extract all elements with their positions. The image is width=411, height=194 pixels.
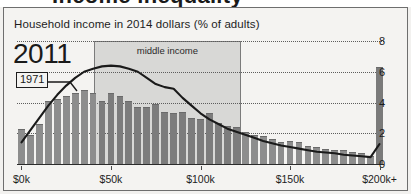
bar — [358, 153, 365, 164]
bar — [313, 147, 320, 164]
x-tick-label: $150k — [276, 173, 305, 185]
bar — [322, 149, 329, 164]
bar — [45, 101, 52, 164]
bar — [331, 150, 338, 164]
bar — [81, 90, 88, 164]
bar — [134, 107, 141, 164]
bar — [27, 135, 34, 164]
x-tick-label: $0k — [13, 173, 30, 185]
x-axis-tick — [380, 166, 381, 170]
bar — [260, 136, 267, 164]
bar — [206, 113, 213, 164]
bar — [170, 113, 177, 164]
bar — [349, 152, 356, 164]
x-axis-tick — [290, 166, 291, 170]
x-axis-tick — [111, 166, 112, 170]
bar — [224, 126, 231, 164]
y-tick-label-4: 4 — [379, 97, 385, 109]
bar — [90, 93, 97, 164]
gridline-0 — [17, 164, 384, 165]
x-axis-tick — [21, 166, 22, 170]
bar — [340, 150, 347, 164]
bar — [63, 96, 70, 164]
y-tick-label-6: 6 — [379, 66, 385, 78]
bar — [233, 127, 240, 164]
bar — [296, 142, 303, 164]
x-tick-label: $100k — [186, 173, 215, 185]
headline-fragment: Income inequality — [0, 0, 411, 7]
bar — [117, 96, 124, 164]
headline-text: Income inequality — [52, 0, 243, 7]
bar — [18, 129, 25, 164]
y-tick-label-8: 8 — [379, 35, 385, 47]
bar — [125, 101, 132, 164]
x-tick-label: $50k — [100, 173, 123, 185]
bar — [152, 104, 159, 164]
x-tick-label: $200k+ — [362, 173, 397, 185]
chart-screenshot: Income inequality Household income in 20… — [0, 0, 411, 194]
bar — [188, 118, 195, 164]
bar — [215, 123, 222, 165]
bar — [278, 142, 285, 164]
bar — [108, 93, 115, 164]
bar — [72, 93, 79, 164]
bar — [367, 156, 374, 164]
bar — [36, 124, 43, 164]
bar-series-2011 — [17, 41, 384, 164]
year-label-1971: 1971 — [16, 72, 48, 88]
bar — [305, 146, 312, 164]
bar — [251, 135, 258, 164]
bar — [54, 99, 61, 164]
year-label-2011: 2011 — [13, 40, 71, 68]
x-axis-tick — [201, 166, 202, 170]
bar — [376, 67, 383, 164]
bar — [99, 101, 106, 164]
bar — [197, 119, 204, 164]
plot-area: middle income — [17, 41, 384, 164]
bar — [143, 107, 150, 164]
bar — [161, 112, 168, 164]
bar — [287, 141, 294, 164]
y-tick-label-2: 2 — [379, 127, 385, 139]
chart-frame: Household income in 2014 dollars (% of a… — [3, 7, 408, 191]
chart-title: Household income in 2014 dollars (% of a… — [14, 18, 260, 30]
bar — [269, 139, 276, 164]
bar — [242, 132, 249, 164]
bar — [179, 112, 186, 164]
